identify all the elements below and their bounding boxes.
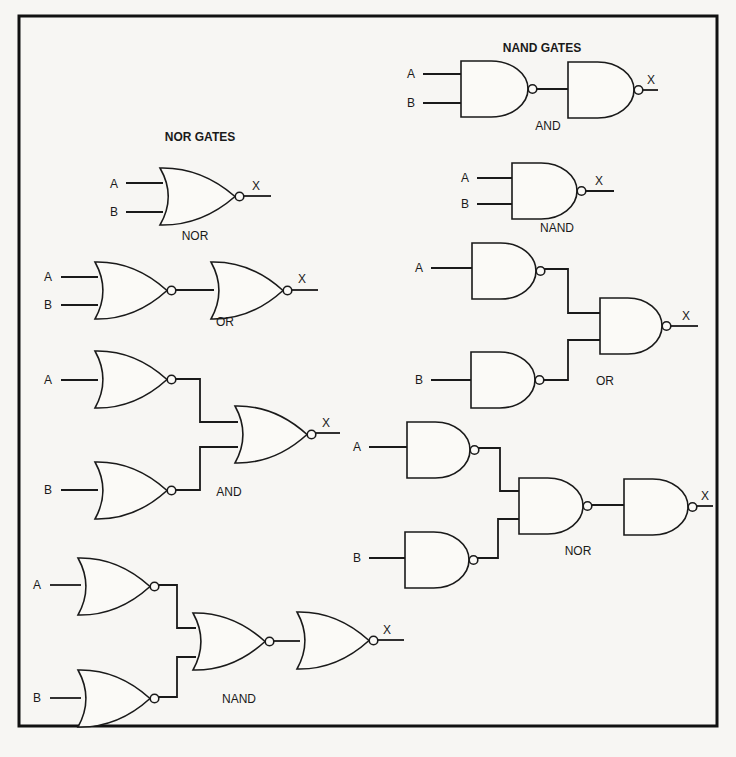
input-label-a: A: [44, 270, 52, 284]
circuit-label-nor-nand: NAND: [222, 692, 256, 706]
gate-body: [297, 612, 369, 669]
wire: [172, 379, 238, 422]
input-label-a: A: [415, 261, 423, 275]
nand-gate-icon: [471, 352, 544, 408]
wire: [155, 657, 196, 697]
inversion-bubble-icon: [469, 556, 478, 565]
gate-body: [95, 262, 167, 319]
nand-gate-icon: [519, 478, 592, 534]
inversion-bubble-icon: [265, 637, 274, 646]
gate-body: [160, 168, 235, 225]
inversion-bubble-icon: [662, 322, 671, 331]
circuit-label-nand-or: OR: [596, 374, 614, 388]
gate-body: [519, 478, 583, 534]
gate-body: [211, 262, 283, 319]
input-label-b: B: [415, 373, 423, 387]
nor-gate-icon: [78, 558, 159, 615]
input-label-b: B: [407, 96, 415, 110]
inversion-bubble-icon: [283, 286, 292, 295]
nor-gate-icon: [95, 462, 176, 519]
input-label-b: B: [33, 691, 41, 705]
gate-body: [600, 298, 662, 354]
inversion-bubble-icon: [167, 286, 176, 295]
input-label-b: B: [353, 551, 361, 565]
input-label-b: B: [44, 483, 52, 497]
output-label-x: X: [252, 179, 260, 193]
input-label-a: A: [461, 171, 469, 185]
circuit-label-nand-and: AND: [535, 119, 561, 133]
inversion-bubble-icon: [535, 376, 544, 385]
nor-gate-icon: [297, 612, 378, 669]
gate-body: [193, 613, 265, 670]
gate-body: [624, 479, 688, 535]
wire: [539, 340, 600, 380]
gate-body: [95, 351, 167, 408]
input-label-a: A: [353, 440, 361, 454]
nand-gate-icon: [405, 532, 478, 588]
logic-gate-diagram: NOR GATES NAND GATES ABABABABABABABABXXX…: [0, 0, 736, 757]
output-label-x: X: [595, 174, 603, 188]
gate-body: [512, 163, 577, 219]
gate-body: [471, 352, 535, 408]
inversion-bubble-icon: [369, 636, 378, 645]
wire: [172, 447, 238, 490]
inversion-bubble-icon: [167, 486, 176, 495]
gate-body: [405, 532, 469, 588]
inversion-bubble-icon: [583, 502, 592, 511]
wire: [474, 448, 519, 491]
inversion-bubble-icon: [235, 192, 244, 201]
circuit-label-nor-nor: NOR: [182, 229, 209, 243]
input-label-a: A: [407, 67, 415, 81]
gate-body: [78, 670, 150, 727]
gate-body: [568, 62, 634, 118]
output-label-x: X: [383, 623, 391, 637]
nand-gates-title: NAND GATES: [503, 41, 581, 55]
nor-gate-icon: [160, 168, 244, 225]
input-label-a: A: [33, 578, 41, 592]
nor-gates-title: NOR GATES: [165, 130, 235, 144]
inversion-bubble-icon: [536, 267, 545, 276]
gate-body: [472, 243, 536, 299]
nor-gate-icon: [95, 262, 176, 319]
output-label-x: X: [682, 309, 690, 323]
gate-body: [407, 422, 470, 478]
gate-body: [95, 462, 167, 519]
output-label-x: X: [647, 73, 655, 87]
circuit-label-nor-and: AND: [216, 485, 242, 499]
nand-gate-icon: [407, 422, 479, 478]
inversion-bubble-icon: [150, 694, 159, 703]
nand-gate-icon: [472, 243, 545, 299]
nor-gate-icon: [95, 351, 176, 408]
gate-body: [235, 406, 307, 463]
nand-gate-icon: [512, 163, 586, 219]
output-label-x: X: [298, 272, 306, 286]
input-label-a: A: [110, 177, 118, 191]
inversion-bubble-icon: [634, 86, 643, 95]
inversion-bubble-icon: [167, 375, 176, 384]
circuit-label-nand-nor: NOR: [565, 544, 592, 558]
inversion-bubble-icon: [688, 503, 697, 512]
wire: [473, 519, 519, 558]
input-label-b: B: [461, 197, 469, 211]
nand-gate-icon: [461, 61, 537, 117]
output-label-x: X: [322, 416, 330, 430]
nand-gate-icon: [600, 298, 671, 354]
output-label-x: X: [701, 489, 709, 503]
input-label-a: A: [44, 373, 52, 387]
nor-gate-icon: [193, 613, 274, 670]
inversion-bubble-icon: [528, 85, 537, 94]
nand-gate-icon: [624, 479, 697, 535]
nor-gate-icon: [235, 406, 316, 463]
wire: [540, 269, 600, 313]
inversion-bubble-icon: [307, 430, 316, 439]
circuit-label-nor-or: OR: [216, 315, 234, 329]
nand-gate-icon: [568, 62, 643, 118]
gate-body: [78, 558, 150, 615]
input-label-b: B: [110, 205, 118, 219]
input-label-b: B: [44, 298, 52, 312]
circuit-label-nand-nand: NAND: [540, 221, 574, 235]
nor-gate-icon: [211, 262, 292, 319]
inversion-bubble-icon: [577, 187, 586, 196]
inversion-bubble-icon: [150, 582, 159, 591]
wire: [155, 585, 196, 628]
